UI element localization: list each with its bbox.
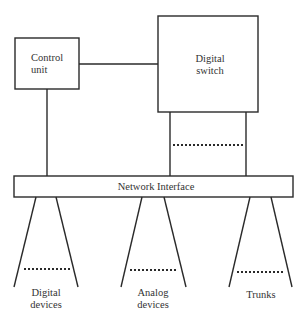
network-interface-bar: Network Interface xyxy=(14,176,293,197)
digital-devices-group: Digital devices xyxy=(14,197,78,310)
analog-devices-group: Analog devices xyxy=(121,197,186,310)
digital-devices-label-line1: Digital xyxy=(31,287,60,298)
control-unit-label-line1: Control xyxy=(31,52,63,63)
trunks-group: Trunks xyxy=(229,197,292,300)
digital-switch-box: Digital switch xyxy=(158,16,258,112)
network-interface-label: Network Interface xyxy=(118,181,195,192)
analog-devices-label-line2: devices xyxy=(137,299,169,310)
digital-switch-label-line1: Digital xyxy=(195,53,224,64)
control-unit-label-line2: unit xyxy=(31,64,47,75)
control-unit-box: Control unit xyxy=(15,38,79,89)
analog-devices-label-line1: Analog xyxy=(138,287,170,298)
trunks-label: Trunks xyxy=(246,289,275,300)
digital-devices-label-line2: devices xyxy=(30,299,62,310)
digital-switch-label-line2: switch xyxy=(196,65,224,76)
digital-switching-diagram: Control unit Digital switch Network Inte… xyxy=(0,0,306,317)
